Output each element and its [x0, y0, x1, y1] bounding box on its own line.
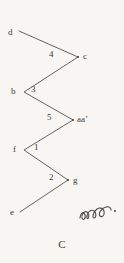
node-label-e: e — [10, 208, 14, 217]
node-label-c: c — [83, 52, 87, 61]
node-label-aa-prime: aa’ — [77, 115, 88, 124]
vertex-dot-g — [67, 179, 69, 181]
segment-label-1: 1 — [34, 143, 39, 152]
node-label-f: f — [13, 145, 16, 154]
vertex-dot-c — [77, 56, 79, 58]
figure-canvas: d c b aa’ f g e 4 3 5 1 2 وو C — [0, 0, 124, 263]
segment-label-5: 5 — [47, 113, 52, 122]
segment-label-3: 3 — [31, 85, 36, 94]
scribble-dot — [114, 210, 116, 212]
segment-label-2: 2 — [49, 173, 54, 182]
figure-caption: C — [0, 238, 124, 250]
node-label-g: g — [73, 176, 78, 185]
vertex-dot-aa — [72, 119, 74, 121]
scribble-stroke — [80, 207, 111, 220]
node-label-b: b — [11, 87, 16, 96]
node-label-d: d — [8, 28, 13, 37]
segment-label-4: 4 — [49, 50, 54, 59]
handwritten-scribble-icon — [78, 196, 120, 226]
